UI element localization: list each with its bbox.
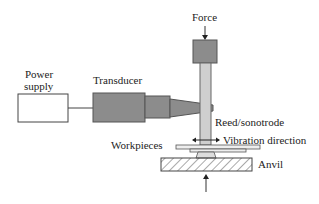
label-reed: Reed/sonotrode — [215, 116, 284, 128]
label-workpieces: Workpieces — [111, 139, 163, 151]
label-power-line1: Power — [25, 68, 53, 80]
power-supply-box — [18, 94, 68, 122]
support-arrowhead — [203, 174, 209, 179]
anvil — [161, 158, 252, 171]
label-power-line2: supply — [24, 80, 53, 92]
force-block — [193, 40, 217, 63]
anvil-tip — [196, 152, 216, 158]
diagram-canvas — [0, 0, 319, 204]
workpiece-bottom — [190, 149, 246, 152]
booster — [145, 96, 170, 118]
transducer-body — [93, 93, 145, 122]
label-anvil: Anvil — [258, 158, 283, 170]
sonotrode-rod — [200, 63, 211, 145]
vibration-arrowhead-left — [192, 138, 196, 143]
label-transducer: Transducer — [93, 74, 142, 86]
label-vibration: Vibration direction — [223, 134, 306, 146]
force-arrowhead — [202, 35, 208, 40]
label-force: Force — [192, 11, 217, 23]
vibration-arrowhead-right — [216, 138, 220, 143]
